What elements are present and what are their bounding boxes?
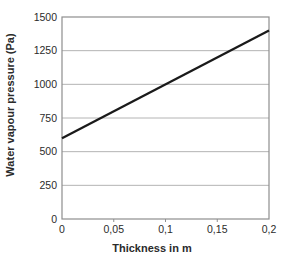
y-tick-label: 0 (51, 213, 57, 225)
chart-canvas: 025050075010001250150000,050,10,150,2 Th… (0, 0, 285, 265)
x-tick-label: 0 (59, 223, 65, 235)
y-tick-label: 250 (39, 179, 57, 191)
y-tick-label: 750 (39, 112, 57, 124)
y-tick-label: 1000 (34, 78, 58, 90)
x-tick-label: 0,15 (207, 223, 228, 235)
x-tick-label: 0,2 (262, 223, 277, 235)
x-tick-label: 0,05 (104, 223, 125, 235)
plot-area: 025050075010001250150000,050,10,150,2 (34, 11, 277, 235)
x-tick-label: 0,1 (158, 223, 173, 235)
y-tick-label: 500 (39, 145, 57, 157)
y-axis-title: Water vapour pressure (Pa) (4, 33, 16, 177)
x-axis-title: Thickness in m (112, 242, 192, 254)
y-tick-label: 1250 (34, 44, 58, 56)
line-chart-figure: 025050075010001250150000,050,10,150,2 Th… (0, 0, 285, 265)
y-tick-label: 1500 (34, 11, 58, 23)
